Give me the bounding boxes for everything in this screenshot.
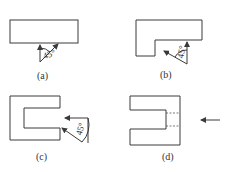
- c-shaped-part: [130, 96, 180, 145]
- rectangle-part: [10, 20, 78, 43]
- panel-b: 45° (b): [136, 20, 202, 81]
- angle-label: 45°: [175, 44, 187, 59]
- panel-label: (a): [37, 70, 48, 82]
- c-shaped-part: [10, 96, 60, 140]
- panel-label: (b): [160, 69, 172, 81]
- panel-a: 45° (a): [10, 20, 78, 82]
- panel-label: (c): [36, 151, 47, 163]
- angle-label: 45°: [74, 121, 87, 136]
- l-shaped-part: [136, 20, 202, 56]
- figure-canvas: 45° (a) 45° (b) 45° (c) (d): [0, 0, 227, 172]
- angle-label: 45°: [42, 47, 58, 61]
- panel-label: (d): [162, 151, 174, 163]
- panel-c: 45° (c): [10, 96, 89, 163]
- panel-d: (d): [130, 96, 220, 163]
